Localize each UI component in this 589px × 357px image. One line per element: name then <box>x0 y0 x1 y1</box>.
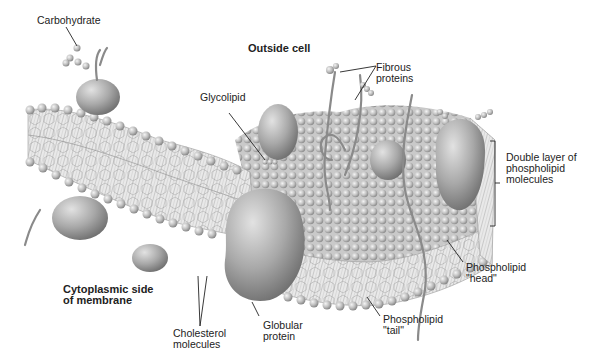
label-glycolipid: Glycolipid <box>200 92 246 103</box>
label-fibrous-proteins-line2: proteins <box>376 73 413 84</box>
label-double-layer-line3: molecules <box>506 174 553 185</box>
label-carbohydrate: Carbohydrate <box>37 15 101 26</box>
label-outside-cell: Outside cell <box>248 43 310 54</box>
label-phospholipid-tail-line2: "tail" <box>383 325 404 336</box>
label-cytoplasmic-side-line2: of membrane <box>63 295 132 306</box>
label-globular-protein-line2: protein <box>263 331 295 342</box>
label-cholesterol-line2: molecules <box>173 339 220 350</box>
label-phospholipid-head-line2: "head" <box>466 273 497 284</box>
